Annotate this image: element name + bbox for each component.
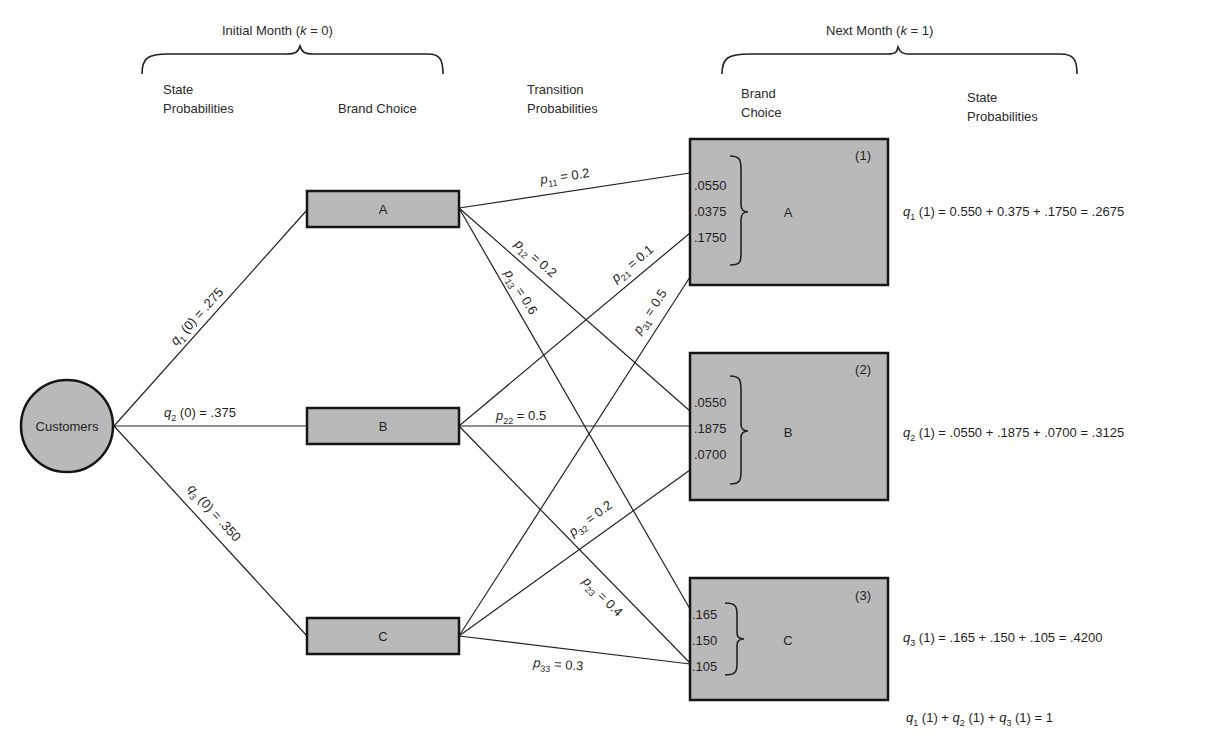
state-probabilities-k1-header: State — [967, 90, 997, 105]
state-probabilities-header: State — [163, 82, 193, 97]
brand-box-c-k1[interactable]: (3) .165 .150 .105 C — [690, 578, 888, 700]
state-index-2: (2) — [855, 362, 871, 377]
transition-label-p11: p11 = 0.2 — [538, 165, 590, 190]
brand-a-k1-label: A — [784, 205, 793, 220]
transition-label-p23: p23 = 0.4 — [577, 573, 626, 622]
svg-text:q1 (1) = 0.550 + 0.375 + .1750: q1 (1) = 0.550 + 0.375 + .1750 = .2675 — [903, 204, 1124, 222]
sum-equation: q1 (1) + q2 (1) + q3 (1) = 1 — [906, 710, 1053, 728]
brand-choice-k1-header-line2: Choice — [741, 105, 781, 120]
brand-b-label: B — [379, 419, 388, 434]
initial-edges — [114, 210, 307, 636]
contribution-c-1: .165 — [692, 607, 717, 622]
next-month-brace — [722, 47, 1077, 74]
brand-box-b-k0[interactable]: B — [307, 408, 459, 444]
contribution-b-3: .0700 — [694, 447, 727, 462]
contribution-c-2: .150 — [692, 633, 717, 648]
svg-text:p33 = 0.3: p33 = 0.3 — [532, 655, 584, 677]
contribution-b-1: .0550 — [694, 395, 727, 410]
svg-text:p31 = 0.5: p31 = 0.5 — [629, 286, 672, 339]
state-index-1: (1) — [855, 148, 871, 163]
contribution-a-2: .0375 — [694, 204, 727, 219]
svg-text:q2 (0) = .375: q2 (0) = .375 — [164, 405, 236, 423]
customers-label: Customers — [36, 419, 99, 434]
transition-probabilities-header-line2: Probabilities — [527, 101, 598, 116]
transition-edges — [459, 173, 690, 664]
svg-text:p23 = 0.4: p23 = 0.4 — [577, 573, 626, 622]
brand-c-k1-label: C — [783, 633, 792, 648]
transition-label-p32: p32 = 0.2 — [565, 497, 617, 542]
brand-choice-header: Brand Choice — [338, 101, 417, 116]
svg-text:q3 (1) = .165 + .150 + .105 =: q3 (1) = .165 + .150 + .105 = .4200 — [903, 630, 1102, 648]
state-probability-eq-1: q1 (1) = 0.550 + 0.375 + .1750 = .2675 — [903, 204, 1124, 222]
next-month-header: Next Month (k = 1) — [722, 23, 1077, 74]
svg-text:Initial Month (k = 0): Initial Month (k = 0) — [222, 23, 333, 38]
state-probabilities-k1-header-line2: Probabilities — [967, 109, 1038, 124]
customers-node[interactable]: Customers — [21, 380, 113, 472]
brand-choice-k1-header: Brand — [741, 86, 776, 101]
contribution-b-2: .1875 — [694, 421, 727, 436]
transition-probabilities-header: Transition — [527, 82, 584, 97]
transition-label-p33: p33 = 0.3 — [532, 655, 584, 677]
svg-text:p22 = 0.5: p22 = 0.5 — [495, 408, 546, 426]
brand-c-label: C — [378, 629, 387, 644]
column-headers: State Probabilities Brand Choice Transit… — [163, 82, 1038, 124]
initial-month-header: Initial Month (k = 0) — [142, 23, 443, 74]
contribution-a-3: .1750 — [694, 230, 727, 245]
svg-text:Next Month (k = 1): Next Month (k = 1) — [826, 23, 933, 38]
state-index-3: (3) — [855, 588, 871, 603]
state-probabilities-header-line2: Probabilities — [163, 101, 234, 116]
state-probability-eq-2: q2 (1) = .0550 + .1875 + .0700 = .3125 — [903, 425, 1124, 443]
brand-b-k1-label: B — [784, 425, 793, 440]
svg-text:p11 = 0.2: p11 = 0.2 — [538, 165, 590, 190]
initial-state-label-2: q2 (0) = .375 — [164, 405, 236, 423]
svg-text:q1 (1) + q2 (1) + q3 (1) = 1: q1 (1) + q2 (1) + q3 (1) = 1 — [906, 710, 1053, 728]
svg-text:q1 (0) = .275: q1 (0) = .275 — [167, 285, 228, 350]
brand-box-a-k0[interactable]: A — [307, 191, 459, 227]
brand-a-label: A — [379, 202, 388, 217]
svg-text:q3 (0) = .350: q3 (0) = .350 — [183, 481, 244, 546]
brand-box-b-k1[interactable]: (2) .0550 .1875 .0700 B — [690, 353, 888, 500]
initial-state-label-3: q3 (0) = .350 — [183, 481, 244, 546]
transition-label-p22: p22 = 0.5 — [495, 408, 546, 426]
svg-text:q2 (1) = .0550 + .1875 + .0700: q2 (1) = .0550 + .1875 + .0700 = .3125 — [903, 425, 1124, 443]
initial-month-brace — [142, 46, 443, 74]
state-probability-eq-3: q3 (1) = .165 + .150 + .105 = .4200 — [903, 630, 1102, 648]
transition-label-p31: p31 = 0.5 — [629, 286, 672, 339]
brand-box-a-k1[interactable]: (1) .0550 .0375 .1750 A — [690, 139, 888, 285]
svg-text:p32 = 0.2: p32 = 0.2 — [565, 497, 617, 542]
contribution-a-1: .0550 — [694, 178, 727, 193]
brand-box-c-k0[interactable]: C — [307, 618, 459, 654]
initial-state-label-1: q1 (0) = .275 — [167, 285, 228, 350]
contribution-c-3: .105 — [692, 659, 717, 674]
